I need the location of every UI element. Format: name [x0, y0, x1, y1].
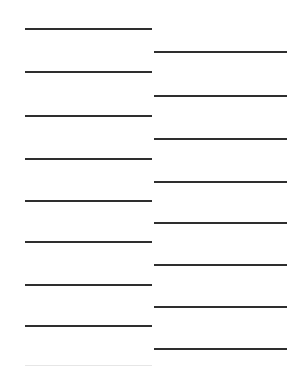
right-write-line-3 [154, 138, 287, 140]
right-column-write-lines [0, 0, 301, 368]
right-write-line-2 [154, 95, 287, 97]
right-write-line-4 [154, 181, 287, 183]
right-write-line-8 [154, 348, 287, 350]
right-write-line-7 [154, 306, 287, 308]
right-write-line-6 [154, 264, 287, 266]
right-write-line-5 [154, 222, 287, 224]
right-write-line-1 [154, 51, 287, 53]
